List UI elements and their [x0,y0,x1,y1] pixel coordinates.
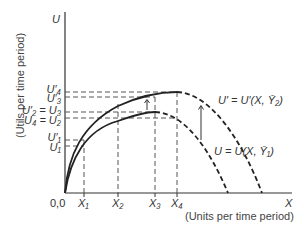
vertical-guides [84,92,177,193]
y-label-U1: U₁ [50,142,61,153]
y-label-U3prime: U′₃ [47,93,61,104]
origin-label: 0,0 [50,198,65,209]
curve-Uprime-dashed [177,92,262,193]
x-ticks [84,193,177,197]
x-label-X3: X₃ [149,198,161,209]
y-label-U4-eq-U2: U₄ = U₂ [24,115,61,126]
y-axis-symbol: U [52,14,60,25]
x-label-X1: X₁ [78,198,89,209]
curve-Uprime-solid [65,92,177,193]
x-label-X2: X₂ [112,198,124,209]
curve-U-solid [65,112,155,193]
curve-label-U: U = U(X, Ȳ₁) [214,146,274,157]
utility-diagram: U X (Utils per time period) (Units per t… [0,0,304,229]
x-axis-title: (Units per time period) [185,210,294,222]
x-axis-symbol: X [285,198,292,209]
curve-label-Uprime: U′ = U′(X, Ȳ₂) [218,95,283,106]
shift-arrows [145,100,204,141]
x-label-X4: X₄ [171,198,183,209]
